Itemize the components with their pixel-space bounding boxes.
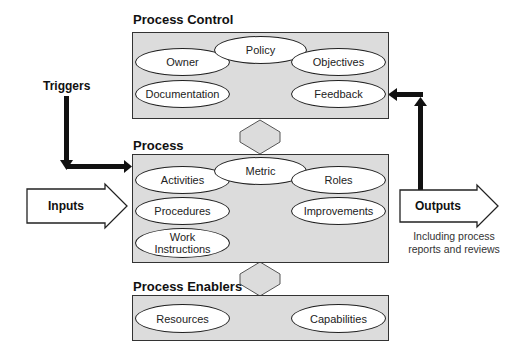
ellipse-capabilities: Capabilities: [291, 304, 386, 333]
ellipse-resources: Resources: [135, 304, 230, 333]
process-control-title: Process Control: [133, 12, 233, 27]
outputs-note-line1: Including process: [394, 230, 514, 243]
ellipse-improvements: Improvements: [291, 197, 386, 225]
ellipse-work-instructions: Work Instructions: [135, 228, 230, 258]
ellipse-procedures: Procedures: [135, 197, 230, 225]
triggers-arrow: [60, 96, 132, 173]
inputs-label: Inputs: [48, 199, 84, 213]
triggers-label: Triggers: [43, 79, 90, 93]
ellipse-roles: Roles: [291, 166, 386, 194]
work-instructions-line2: Instructions: [154, 243, 210, 255]
ellipse-documentation: Documentation: [135, 80, 230, 108]
ellipse-feedback: Feedback: [291, 80, 386, 108]
outputs-note-line2: reports and reviews: [394, 243, 514, 256]
process-title: Process: [133, 138, 184, 153]
double-arrow-control-process: [240, 120, 280, 154]
process-enablers-title: Process Enablers: [133, 279, 242, 294]
outputs-note: Including process reports and reviews: [394, 230, 514, 256]
ellipse-objectives: Objectives: [291, 48, 386, 76]
double-arrow-process-enablers: [240, 262, 280, 296]
work-instructions-line1: Work: [170, 231, 195, 243]
outputs-label: Outputs: [415, 199, 461, 213]
feedback-arrow: [388, 88, 427, 196]
